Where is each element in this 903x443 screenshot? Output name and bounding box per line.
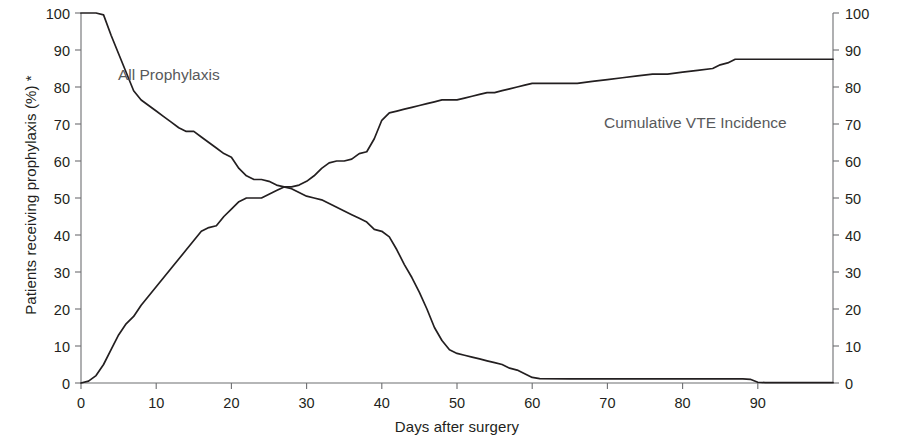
svg-text:90: 90 <box>54 43 70 59</box>
svg-text:80: 80 <box>54 80 70 96</box>
svg-text:30: 30 <box>299 395 315 411</box>
chart-figure: 0102030405060708090 01020304050607080901… <box>0 0 903 443</box>
series-annotation-cumulative-vte-incidence: Cumulative VTE Incidence <box>604 114 787 132</box>
svg-text:10: 10 <box>54 339 70 355</box>
svg-text:10: 10 <box>148 395 164 411</box>
svg-text:100: 100 <box>46 6 70 22</box>
svg-text:40: 40 <box>54 228 70 244</box>
series-line-2 <box>81 59 833 383</box>
svg-text:90: 90 <box>845 43 861 59</box>
x-axis-tick-labels: 0102030405060708090 <box>77 395 766 411</box>
y-axis-left-ticks <box>75 13 81 383</box>
svg-text:20: 20 <box>845 302 861 318</box>
y-axis-right-ticks <box>833 13 839 383</box>
series-annotation-all-prophylaxis: All Prophylaxis <box>118 66 220 84</box>
svg-text:0: 0 <box>77 395 85 411</box>
svg-text:30: 30 <box>54 265 70 281</box>
x-axis-title: Days after surgery <box>81 418 833 435</box>
svg-text:60: 60 <box>54 154 70 170</box>
y-axis-left-tick-labels: 0102030405060708090100 <box>46 6 70 392</box>
svg-text:50: 50 <box>845 191 861 207</box>
svg-text:80: 80 <box>675 395 691 411</box>
svg-text:0: 0 <box>845 376 853 392</box>
svg-text:30: 30 <box>845 265 861 281</box>
y-axis-right-tick-labels: 0102030405060708090100 <box>845 6 869 392</box>
svg-text:40: 40 <box>845 228 861 244</box>
svg-text:80: 80 <box>845 80 861 96</box>
svg-text:10: 10 <box>845 339 861 355</box>
svg-text:70: 70 <box>845 117 861 133</box>
svg-text:70: 70 <box>599 395 615 411</box>
svg-text:90: 90 <box>750 395 766 411</box>
svg-text:50: 50 <box>54 191 70 207</box>
x-axis-ticks <box>81 383 758 389</box>
svg-text:20: 20 <box>223 395 239 411</box>
svg-text:60: 60 <box>845 154 861 170</box>
svg-text:40: 40 <box>374 395 390 411</box>
svg-text:0: 0 <box>62 376 70 392</box>
svg-text:20: 20 <box>54 302 70 318</box>
svg-text:70: 70 <box>54 117 70 133</box>
y-axis-left-title: Patients receiving prophylaxis (%) * <box>22 0 44 390</box>
svg-text:60: 60 <box>524 395 540 411</box>
svg-text:100: 100 <box>845 6 869 22</box>
svg-text:50: 50 <box>449 395 465 411</box>
